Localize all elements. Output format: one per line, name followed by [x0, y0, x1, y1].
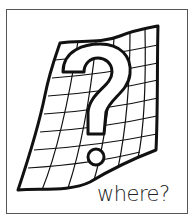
caption-text: where? [97, 182, 170, 206]
question-mark-dot [88, 149, 104, 165]
